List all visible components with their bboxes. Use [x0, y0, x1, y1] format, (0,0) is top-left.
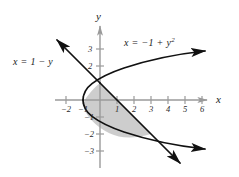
- y-tick-label--2: −2: [84, 130, 94, 139]
- x-tick-label-4: 4: [166, 105, 170, 114]
- x-tick-label--2: −2: [61, 105, 71, 114]
- y-tick-label-3: 3: [88, 45, 92, 54]
- y-tick-label-2: 2: [88, 62, 92, 71]
- x-axis-label: x: [216, 94, 221, 105]
- x-tick-label-5: 5: [183, 105, 187, 114]
- parabola-equation-label: x = −1 + y2: [124, 37, 175, 48]
- x-tick-label-2: 2: [132, 105, 136, 114]
- x-tick-label-6: 6: [200, 105, 204, 114]
- graph-canvas: [0, 0, 239, 177]
- parabola-equation-text: x = −1 + y: [124, 37, 171, 48]
- plot-background: [0, 0, 239, 177]
- x-tick-label-3: 3: [149, 105, 153, 114]
- parabola-equation-exponent: 2: [171, 36, 175, 44]
- y-tick-label--1: −1: [84, 113, 94, 122]
- y-tick-label--3: −3: [84, 147, 94, 156]
- y-axis-label: y: [96, 11, 101, 22]
- x-tick-label-1: 1: [115, 105, 119, 114]
- line-equation-label: x = 1 − y: [13, 57, 53, 67]
